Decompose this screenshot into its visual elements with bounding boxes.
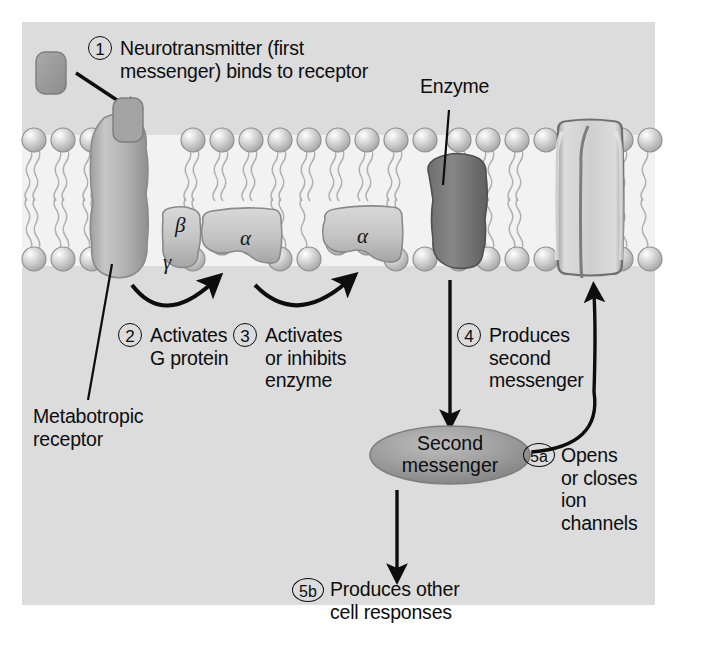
- step-marker-5b: 5b: [292, 578, 324, 602]
- ion-channel-protein: [557, 120, 624, 279]
- gprotein-alpha-symbol-free: α: [357, 224, 368, 249]
- step-label-1: Neurotransmitter (first messenger) binds…: [120, 37, 400, 82]
- step-marker-2: 2: [118, 323, 142, 347]
- second-messenger-label: Second messenger: [380, 432, 520, 476]
- gprotein-gamma-symbol: γ: [163, 250, 171, 275]
- step-marker-5a: 5a: [523, 443, 555, 467]
- metabotropic-receptor-label: Metabotropic receptor: [33, 405, 203, 450]
- step-label-2: Activates G protein: [150, 324, 280, 369]
- signaling-diagram-figure: 1 Neurotransmitter (first messenger) bin…: [0, 0, 710, 661]
- neurotransmitter-free-molecule: [36, 52, 66, 94]
- step-marker-1: 1: [88, 36, 112, 60]
- step-marker-3: 3: [233, 323, 257, 347]
- step-marker-4: 4: [457, 323, 481, 347]
- step-label-4: Produces second messenger: [489, 324, 639, 392]
- step-label-5a: Opens or closes ion channels: [561, 444, 681, 534]
- step-label-5b: Produces other cell responses: [330, 578, 560, 623]
- enzyme-label: Enzyme: [420, 75, 489, 98]
- gprotein-beta-symbol: β: [175, 213, 185, 238]
- step-label-3: Activates or inhibits enzyme: [265, 324, 405, 392]
- gprotein-alpha-symbol-attached: α: [240, 226, 251, 251]
- neurotransmitter-bound-molecule: [113, 98, 143, 142]
- enzyme-protein: [428, 153, 487, 268]
